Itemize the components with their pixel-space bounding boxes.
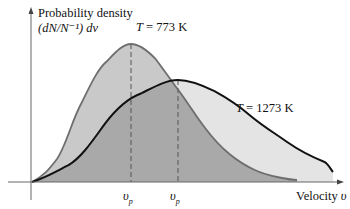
legend-773k: T = 773 K bbox=[136, 20, 187, 34]
x-axis-arrow-icon bbox=[337, 180, 344, 185]
x-axis-label-text: Velocity bbox=[296, 189, 341, 203]
vp-subscript: p bbox=[129, 197, 133, 206]
legend-773k-T: T bbox=[136, 20, 143, 34]
legend-773k-value: = 773 K bbox=[143, 20, 187, 34]
y-axis-label-line2: (dN/N⁻¹) dv bbox=[38, 21, 98, 35]
y-axis-label-line1: Probability density bbox=[38, 6, 133, 20]
legend-1273k-T: T bbox=[236, 101, 243, 115]
legend-1273k-value: = 1273 K bbox=[243, 101, 293, 115]
y-axis-arrow-icon bbox=[29, 7, 34, 14]
x-axis-label-var: υ bbox=[341, 189, 347, 203]
vp-label-773k: υp bbox=[123, 189, 133, 209]
legend-1273k: T = 1273 K bbox=[236, 101, 293, 115]
vp-subscript: p bbox=[176, 197, 180, 206]
vp-label-1273k: υp bbox=[170, 189, 180, 209]
x-axis-label: Velocity υ bbox=[296, 189, 347, 203]
